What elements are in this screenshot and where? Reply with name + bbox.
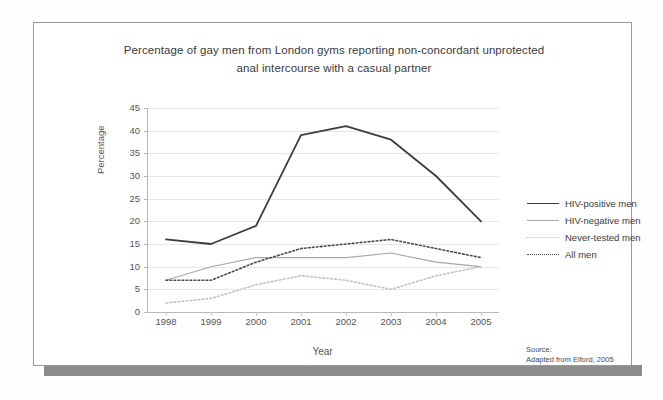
legend-swatch-icon — [526, 216, 560, 226]
legend-item[interactable]: HIV-positive men — [526, 195, 661, 212]
legend-swatch-icon — [526, 199, 560, 209]
y-tick-label: 30 — [112, 170, 140, 181]
y-tick-label: 35 — [112, 147, 140, 158]
chart-title-line-1: Percentage of gay men from London gyms r… — [94, 41, 574, 59]
chart-title-line-2: anal intercourse with a casual partner — [94, 59, 574, 77]
x-tick-label: 2002 — [326, 316, 366, 327]
source-label: Source: — [526, 345, 614, 355]
y-tick-label: 40 — [112, 125, 140, 136]
legend-label: HIV-negative men — [560, 215, 641, 226]
x-tick-label: 2001 — [281, 316, 321, 327]
y-axis-title: Percentage — [95, 125, 106, 174]
chart-title: Percentage of gay men from London gyms r… — [94, 41, 574, 77]
legend-swatch-icon — [526, 250, 560, 260]
y-tick-label: 45 — [112, 102, 140, 113]
legend-item[interactable]: All men — [526, 246, 661, 263]
y-tick-label: 10 — [112, 261, 140, 272]
y-tick-label: 20 — [112, 215, 140, 226]
source-text: Adapted from Elford, 2005 — [526, 355, 614, 365]
legend-label: HIV-positive men — [560, 198, 637, 209]
y-tick-label: 0 — [112, 306, 140, 317]
series-line — [166, 239, 481, 280]
plot-inner: 051015202530354045 199819992000200120022… — [147, 108, 499, 313]
legend-label: Never-tested men — [560, 232, 641, 243]
y-tick-mark — [144, 312, 148, 313]
figure-drop-shadow — [44, 365, 642, 376]
x-tick-label: 2000 — [236, 316, 276, 327]
legend-swatch-icon — [526, 233, 560, 243]
figure-frame: Percentage of gay men from London gyms r… — [33, 22, 632, 366]
legend-label: All men — [560, 249, 597, 260]
series-line — [166, 126, 481, 244]
source-note: Source: Adapted from Elford, 2005 — [526, 345, 614, 365]
legend-item[interactable]: Never-tested men — [526, 229, 661, 246]
figure-page: Percentage of gay men from London gyms r… — [0, 0, 663, 400]
y-tick-label: 15 — [112, 238, 140, 249]
series-layer — [148, 108, 499, 312]
y-tick-label: 5 — [112, 283, 140, 294]
legend-item[interactable]: HIV-negative men — [526, 212, 661, 229]
series-line — [166, 267, 481, 303]
y-tick-label: 25 — [112, 193, 140, 204]
x-tick-label: 1998 — [146, 316, 186, 327]
plot-area: Percentage 051015202530354045 1998199920… — [113, 108, 498, 334]
x-tick-label: 1999 — [191, 316, 231, 327]
x-axis-title: Year — [147, 346, 498, 357]
x-tick-label: 2004 — [416, 316, 456, 327]
x-tick-label: 2005 — [461, 316, 501, 327]
chart-legend: HIV-positive menHIV-negative menNever-te… — [526, 195, 661, 263]
x-tick-label: 2003 — [371, 316, 411, 327]
